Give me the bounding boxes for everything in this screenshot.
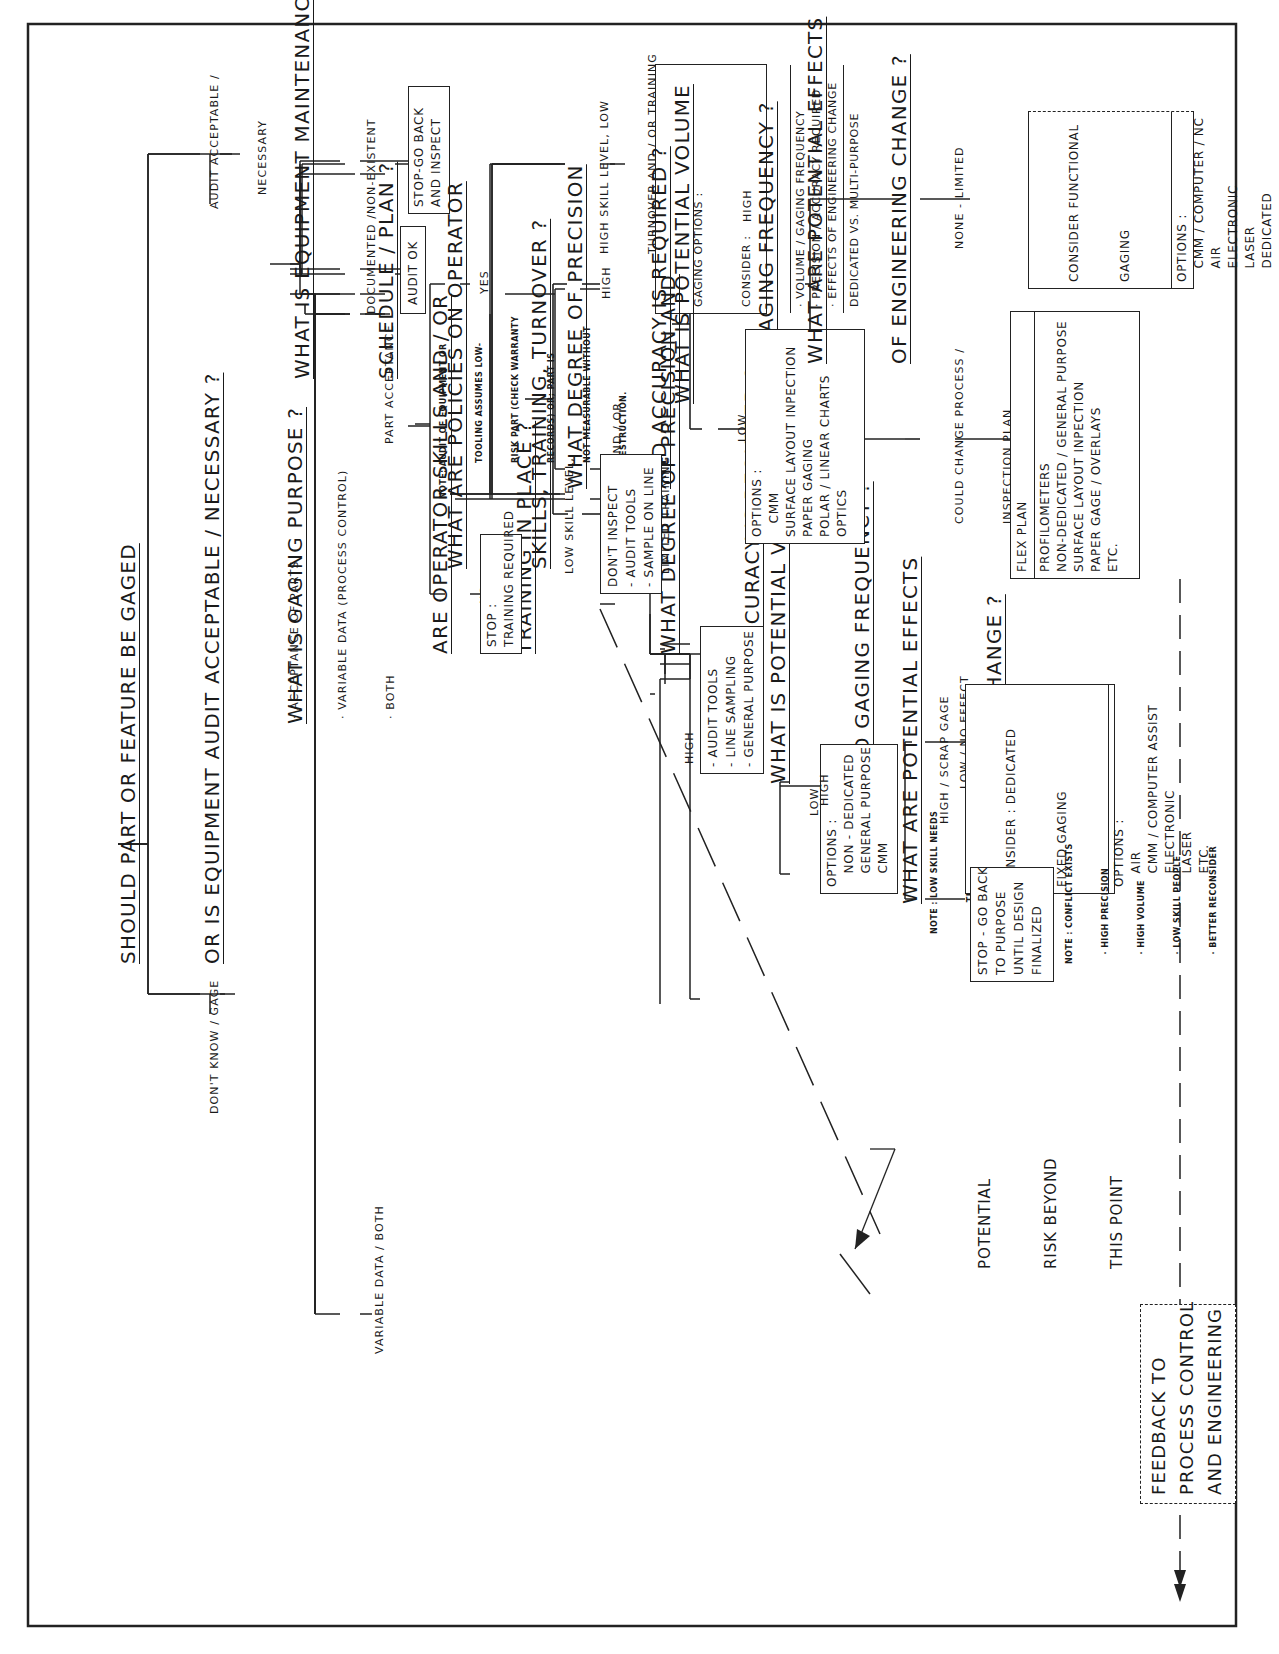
decision-tree-diagram: SHOULD PART OR FEATURE BE GAGED OR IS EQ… (0, 0, 1279, 1654)
feedback-line-text: PROCESS CONTROL (1173, 1313, 1201, 1495)
feedback-line (0, 0, 1279, 1654)
feedback-line-text: FEEDBACK TO (1145, 1313, 1173, 1495)
feedback-box: FEEDBACK TO PROCESS CONTROL AND ENGINEER… (1140, 1304, 1236, 1504)
feedback-line-text: AND ENGINEERING (1201, 1313, 1229, 1495)
